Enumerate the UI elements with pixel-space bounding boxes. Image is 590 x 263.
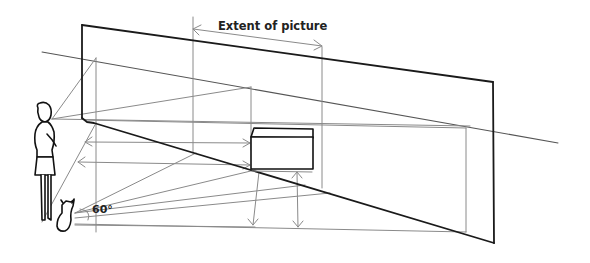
perspective-diagram: Extent of picture 60° — [0, 0, 590, 263]
dog — [57, 199, 74, 231]
extent-label: Extent of picture — [218, 19, 328, 33]
angle-arc — [80, 209, 89, 220]
box-object — [251, 128, 313, 172]
angle-label: 60° — [92, 203, 113, 216]
